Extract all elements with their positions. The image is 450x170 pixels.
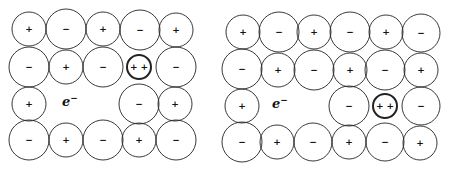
- charge-label: −: [136, 25, 144, 35]
- charge-label: +: [25, 24, 33, 34]
- positive-ion: +: [333, 53, 367, 87]
- charge-label: −: [172, 135, 180, 145]
- charge-label: −: [417, 28, 425, 38]
- positive-ion: +: [404, 53, 438, 87]
- charge-label: −: [381, 137, 389, 147]
- charge-label: +: [382, 27, 390, 37]
- charge-label: −: [275, 27, 283, 37]
- negative-ion: −: [222, 122, 262, 162]
- charge-label: −: [99, 62, 107, 72]
- charge-label: +: [239, 27, 247, 37]
- negative-ion: −: [402, 14, 440, 52]
- charge-label: −: [62, 24, 70, 34]
- positive-ion: +: [226, 15, 260, 49]
- negative-ion: −: [294, 123, 332, 161]
- negative-ion: −: [329, 86, 369, 126]
- electron-label: e−: [62, 93, 78, 109]
- electron-label: e−: [272, 95, 288, 111]
- charge-label: −: [238, 64, 246, 74]
- negative-ion: −: [119, 84, 159, 124]
- charge-label: +: [135, 135, 143, 145]
- charge-label: +: [171, 99, 179, 109]
- charge-label: +: [310, 27, 318, 37]
- positive-ion: +: [49, 123, 83, 157]
- negative-ion: −: [156, 47, 196, 87]
- charge-label: −: [345, 101, 353, 111]
- positive-ion: +: [158, 87, 192, 121]
- negative-ion: −: [366, 123, 404, 161]
- positive-ion: +: [225, 89, 259, 123]
- positive-ion: +: [297, 15, 331, 49]
- charge-label: +: [417, 65, 425, 75]
- negative-ion: −: [9, 47, 49, 87]
- positive-ion: +: [159, 13, 193, 47]
- negative-ion: −: [83, 120, 123, 160]
- positive-ion: +: [122, 123, 156, 157]
- negative-ion: −: [294, 50, 334, 90]
- negative-ion: −: [83, 47, 123, 87]
- positive-ion: +: [261, 53, 295, 87]
- negative-ion: −: [365, 50, 405, 90]
- charge-label: +: [345, 137, 353, 147]
- negative-ion: −: [156, 120, 196, 160]
- charge-label: +: [172, 25, 180, 35]
- charge-label: +: [62, 135, 70, 145]
- charge-label: +: [62, 62, 70, 72]
- negative-ion: −: [46, 9, 86, 49]
- positive-ion: +: [403, 126, 437, 160]
- positive-ion: +: [12, 87, 46, 121]
- charge-label: + +: [376, 101, 394, 111]
- charge-label: +: [416, 138, 424, 148]
- charge-label: +: [273, 137, 281, 147]
- charge-label: −: [135, 99, 143, 109]
- double-positive-ion: + +: [127, 55, 151, 79]
- charge-label: −: [99, 135, 107, 145]
- negative-ion: −: [259, 12, 299, 52]
- diagram-canvas: +−+−+−+−+ +−+−+−+−+−e− +−+−+−−+−+−++−+ +…: [0, 0, 450, 170]
- double-positive-ion: + +: [373, 94, 397, 118]
- charge-label: −: [172, 62, 180, 72]
- charge-label: +: [99, 24, 107, 34]
- charge-label: −: [381, 65, 389, 75]
- charge-label: −: [25, 62, 33, 72]
- positive-ion: +: [369, 15, 403, 49]
- positive-ion: +: [332, 125, 366, 159]
- negative-ion: −: [120, 10, 160, 50]
- charge-label: +: [346, 65, 354, 75]
- lattice-diagram: +−+−+−+−+ +−+−+−+−+−e− +−+−+−−+−+−++−+ +…: [0, 0, 450, 170]
- right-lattice-panel: +−+−+−−+−+−++−+ +−−+−+−+e−: [222, 12, 440, 162]
- charge-label: + +: [130, 62, 148, 72]
- positive-ion: +: [86, 12, 120, 46]
- charge-label: −: [346, 27, 354, 37]
- positive-ion: +: [260, 125, 294, 159]
- charge-label: +: [238, 101, 246, 111]
- charge-label: −: [25, 135, 33, 145]
- charge-label: −: [417, 101, 425, 111]
- charge-label: +: [25, 99, 33, 109]
- positive-ion: +: [12, 12, 46, 46]
- negative-ion: −: [330, 12, 370, 52]
- charge-label: +: [274, 65, 282, 75]
- charge-label: −: [310, 65, 318, 75]
- left-lattice-panel: +−+−+−+−+ +−+−+−+−+−e−: [9, 9, 196, 160]
- charge-label: −: [309, 137, 317, 147]
- negative-ion: −: [402, 87, 440, 125]
- negative-ion: −: [9, 120, 49, 160]
- negative-ion: −: [222, 49, 262, 89]
- positive-ion: +: [49, 50, 83, 84]
- charge-label: −: [238, 137, 246, 147]
